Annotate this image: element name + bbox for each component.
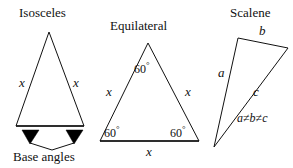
degree-symbol-icon: ° (146, 60, 150, 70)
scalene-side-c-label: c (253, 85, 259, 98)
equilateral-right-angle-label: 60° (170, 125, 186, 139)
isosceles-right-side-label: x (73, 76, 79, 89)
equilateral-right-angle-value: 60 (170, 126, 182, 140)
scalene-triangle-shape (214, 38, 288, 147)
equilateral-left-side-label: x (106, 85, 112, 98)
degree-symbol-icon: ° (182, 124, 186, 134)
equilateral-right-side-label: x (185, 85, 191, 98)
base-angle-marker-left-icon (22, 130, 39, 144)
scalene-relation-label: a≠b≠c (237, 112, 268, 124)
base-angle-marker-right-icon (66, 130, 83, 144)
not-equal-icon: ≠ (243, 111, 250, 125)
equilateral-base-label: x (146, 145, 152, 158)
equilateral-left-angle-label: 60° (104, 125, 120, 139)
triangle-types-figure: Isosceles x x Base angles Equilateral 60… (0, 0, 293, 168)
scalene-side-b-label: b (259, 24, 266, 37)
equilateral-top-angle-value: 60 (134, 62, 146, 76)
base-angles-caption: Base angles (13, 150, 75, 163)
scalene-side-a-label: a (218, 66, 225, 79)
equilateral-top-angle-label: 60° (134, 61, 150, 75)
isosceles-left-side-label: x (19, 76, 25, 89)
degree-symbol-icon: ° (116, 124, 120, 134)
isosceles-title: Isosceles (19, 6, 66, 19)
relation-term-c: c (262, 111, 267, 125)
equilateral-title: Equilateral (110, 19, 167, 32)
base-angle-markers (22, 130, 83, 150)
scalene-title: Scalene (230, 6, 270, 19)
scalene-outline (214, 38, 288, 147)
equilateral-left-angle-value: 60 (104, 126, 116, 140)
